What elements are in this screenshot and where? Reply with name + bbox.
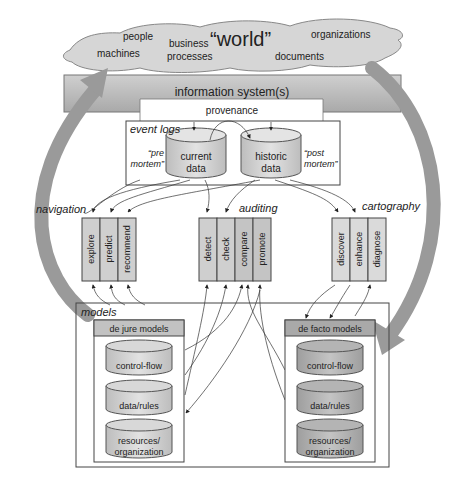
pre-mortem-line2: mortem” <box>131 159 166 169</box>
auditing-label: auditing <box>239 202 278 214</box>
activity-explore: explore <box>86 234 96 264</box>
models-label: models <box>81 306 117 318</box>
world-item-organizations: organizations <box>311 29 370 40</box>
world-title: “world” <box>210 28 271 50</box>
activity-recommend: recommend <box>122 225 132 273</box>
world-item-people: people <box>123 31 153 42</box>
information-system-label: information system(s) <box>175 85 290 99</box>
post-mortem-line1: “post <box>304 148 325 158</box>
process-mining-diagram: “world” people machines business process… <box>0 0 461 481</box>
current-data-line1: current <box>180 151 211 162</box>
activity-enhance: enhance <box>354 232 364 267</box>
world-item-machines: machines <box>97 48 140 59</box>
world-item-documents: documents <box>275 51 324 62</box>
event-logs-label: event logs <box>130 123 181 135</box>
historic-data-line1: historic <box>255 151 287 162</box>
world-item-processes: processes <box>167 51 213 62</box>
activity-discover: discover <box>336 232 346 266</box>
pre-mortem-line1: “pre <box>148 148 164 158</box>
world-item-business: business <box>169 38 208 49</box>
cartography-label: cartography <box>362 200 422 212</box>
dejure-organization: organization <box>114 447 163 457</box>
defacto-resources: resources/ <box>309 436 352 446</box>
activity-check: check <box>221 237 231 261</box>
dejure-data-rules: data/rules <box>119 401 159 411</box>
activity-detect: detect <box>203 236 213 261</box>
de-jure-title: de jure models <box>109 324 169 334</box>
activity-predict: predict <box>104 235 114 263</box>
activity-diagnose: diagnose <box>372 231 382 268</box>
dejure-resources: resources/ <box>118 436 161 446</box>
navigation-label: navigation <box>36 203 86 215</box>
provenance-label: provenance <box>206 105 259 116</box>
defacto-control-flow: control-flow <box>307 361 354 371</box>
historic-data-line2: data <box>261 163 281 174</box>
de-facto-title: de facto models <box>298 324 362 334</box>
activity-promote: promote <box>257 232 267 265</box>
dejure-control-flow: control-flow <box>116 361 163 371</box>
defacto-organization: organization <box>305 447 354 457</box>
post-mortem-line2: mortem” <box>304 159 339 169</box>
activity-compare: compare <box>239 231 249 266</box>
defacto-data-rules: data/rules <box>310 401 350 411</box>
current-data-line2: data <box>186 163 206 174</box>
